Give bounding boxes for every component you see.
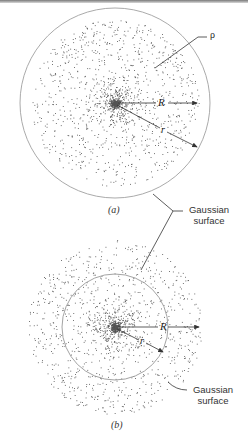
- gaussian-surface-label-a: Gaussian surface: [184, 204, 234, 226]
- gaussian-bracket-line: [141, 194, 173, 270]
- radius-r-label-b: r: [140, 335, 144, 346]
- density-rho-label: ρ: [210, 29, 215, 40]
- gaussian-label-line1: Gaussian: [184, 204, 234, 215]
- radius-R-label-b: R: [160, 320, 167, 332]
- radius-R-label-a: R: [158, 96, 165, 108]
- gaussian-label-line2: surface: [184, 215, 234, 226]
- radius-r-label-a: r: [161, 124, 165, 135]
- gaussian-leader-line-b: [168, 382, 187, 390]
- density-leader-line: [155, 37, 207, 68]
- caption-b: (b): [111, 419, 123, 430]
- gaussian-surface-label-b: Gaussian surface: [188, 384, 238, 406]
- radius-r-arrow-b: [146, 343, 163, 352]
- gaussian-label-line1: Gaussian: [188, 384, 238, 395]
- gaussian-label-line2: surface: [188, 395, 238, 406]
- caption-a: (a): [108, 204, 120, 215]
